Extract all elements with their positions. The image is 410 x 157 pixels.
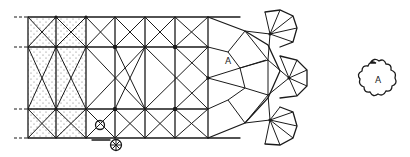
chapel-east: [268, 56, 307, 98]
spiral-stair: [92, 140, 122, 151]
dashed-axis-lines: [14, 17, 28, 138]
round-pier: [96, 121, 105, 130]
detail-label-a: A: [375, 75, 382, 85]
stippled-aisle-bays: [28, 17, 86, 138]
radiating-chapels: [245, 10, 307, 145]
floor-plan-diagram: A A: [0, 0, 410, 157]
detail-a-cusped-figure: A: [358, 59, 396, 95]
vault-label-a: A: [225, 56, 232, 66]
